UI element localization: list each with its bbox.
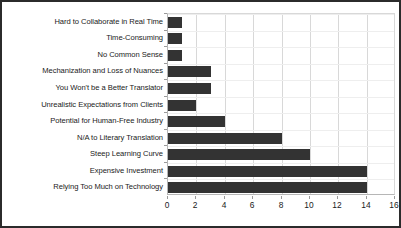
category-tick — [164, 30, 167, 31]
row-separator — [168, 47, 394, 48]
category-tick — [164, 79, 167, 80]
bar — [168, 182, 367, 193]
category-label: Unrealistic Expectations from Clients — [5, 100, 163, 109]
row-separator — [168, 80, 394, 81]
category-label: N/A to Literary Translation — [5, 133, 163, 142]
value-tick-label: 12 — [332, 200, 341, 210]
gridline — [367, 14, 368, 194]
category-tick — [164, 63, 167, 64]
value-tick — [252, 196, 253, 199]
bar — [168, 149, 310, 160]
category-tick — [164, 162, 167, 163]
category-label: No Common Sense — [5, 50, 163, 59]
value-tick — [195, 196, 196, 199]
category-label: Expensive Investment — [5, 166, 163, 175]
row-separator — [168, 31, 394, 32]
category-label: Hard to Collaborate in Real Time — [5, 17, 163, 26]
bar — [168, 17, 182, 28]
bar — [168, 83, 211, 94]
value-tick-label: 4 — [222, 200, 227, 210]
bar — [168, 33, 182, 44]
value-tick — [281, 196, 282, 199]
category-label: Potential for Human-Free Industry — [5, 116, 163, 125]
bar — [168, 100, 196, 111]
bar — [168, 50, 182, 61]
value-tick-label: 10 — [304, 200, 313, 210]
category-tick — [164, 112, 167, 113]
category-tick — [164, 96, 167, 97]
category-tick — [164, 46, 167, 47]
category-label: Time-Consuming — [5, 33, 163, 42]
bar — [168, 116, 225, 127]
value-tick — [167, 196, 168, 199]
category-tick — [164, 178, 167, 179]
category-label: Relying Too Much on Technology — [5, 182, 163, 191]
value-tick-label: 2 — [193, 200, 198, 210]
value-tick-label: 16 — [389, 200, 398, 210]
bar — [168, 66, 211, 77]
value-tick-label: 6 — [250, 200, 255, 210]
value-tick — [224, 196, 225, 199]
category-label: You Won't be a Better Translator — [5, 83, 163, 92]
value-tick — [337, 196, 338, 199]
value-tick-label: 14 — [361, 200, 370, 210]
row-separator — [168, 130, 394, 131]
category-label: Steep Learning Curve — [5, 149, 163, 158]
chart-inner: Hard to Collaborate in Real TimeTime-Con… — [5, 5, 396, 223]
category-axis-labels: Hard to Collaborate in Real TimeTime-Con… — [5, 13, 163, 195]
plot-area — [167, 13, 395, 195]
row-separator — [168, 113, 394, 114]
category-tick — [164, 145, 167, 146]
row-separator — [168, 97, 394, 98]
value-axis: 0246810121416 — [167, 196, 395, 216]
category-tick — [164, 13, 167, 14]
bar — [168, 166, 367, 177]
row-separator — [168, 179, 394, 180]
row-separator — [168, 14, 394, 15]
bar — [168, 133, 282, 144]
chart-frame: Hard to Collaborate in Real TimeTime-Con… — [0, 0, 401, 228]
category-label: Mechanization and Loss of Nuances — [5, 66, 163, 75]
row-separator — [168, 163, 394, 164]
category-tick — [164, 129, 167, 130]
value-tick — [309, 196, 310, 199]
row-separator — [168, 64, 394, 65]
row-separator — [168, 146, 394, 147]
value-tick — [394, 196, 395, 199]
value-tick-label: 8 — [279, 200, 284, 210]
value-tick-label: 0 — [165, 200, 170, 210]
value-tick — [366, 196, 367, 199]
